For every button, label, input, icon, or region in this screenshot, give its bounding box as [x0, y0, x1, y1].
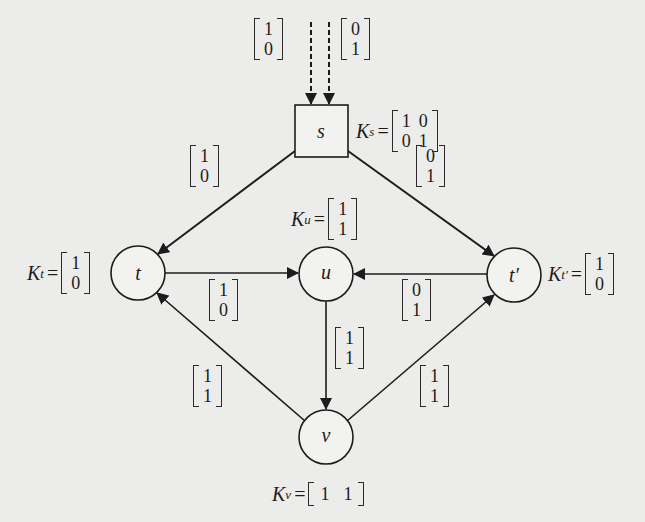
edge-s-t: [158, 151, 295, 254]
node-tprime-label: t′: [509, 265, 519, 285]
edge-u-v-vector: 1 1: [335, 327, 364, 369]
kernel-s-label: Ks = 10 01: [356, 110, 438, 152]
edge-v-tprime-vector: 1 1: [420, 365, 449, 407]
kernel-u-label: Ku = 1 1: [291, 198, 357, 240]
edge-s-t-vector: 1 0: [190, 145, 219, 187]
kernel-t-label: Kt = 1 0: [27, 252, 90, 294]
edge-t-u-vector: 1 0: [209, 279, 238, 321]
node-s-label: s: [317, 121, 325, 141]
node-u-label: u: [321, 262, 331, 282]
kernel-v-label: Kv = 11: [272, 482, 364, 506]
network-coding-diagram: s t u t′ v 1 0 0 1 1 0 0 1 1 0 0: [0, 0, 645, 522]
edge-tprime-u-vector: 0 1: [402, 279, 431, 321]
edge-input-1-vector: 1 0: [254, 18, 283, 60]
kernel-tprime-label: Kt′ = 1 0: [548, 253, 614, 295]
node-t-label: t: [135, 263, 141, 283]
edge-input-2-vector: 0 1: [341, 18, 370, 60]
node-v-label: v: [322, 425, 331, 445]
edge-v-t-vector: 1 1: [193, 365, 222, 407]
